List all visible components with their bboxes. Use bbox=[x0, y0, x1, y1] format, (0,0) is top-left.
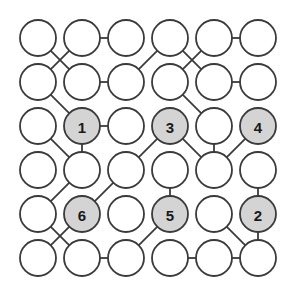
graph-node[interactable] bbox=[20, 20, 56, 56]
graph-edge bbox=[94, 182, 113, 201]
graph-node-2[interactable]: 2 bbox=[240, 196, 276, 232]
graph-edge bbox=[226, 138, 245, 157]
graph-edge bbox=[138, 226, 157, 245]
graph-node[interactable] bbox=[152, 64, 188, 100]
node-label: 3 bbox=[166, 119, 174, 136]
node-circle-empty[interactable] bbox=[20, 64, 56, 100]
graph-edge bbox=[50, 94, 69, 113]
node-circle-empty[interactable] bbox=[196, 152, 232, 188]
graph-node[interactable] bbox=[196, 20, 232, 56]
graph-node[interactable] bbox=[196, 152, 232, 188]
graph-node[interactable] bbox=[108, 64, 144, 100]
graph-node[interactable] bbox=[64, 20, 100, 56]
node-circle-empty[interactable] bbox=[152, 240, 188, 276]
graph-node[interactable] bbox=[152, 152, 188, 188]
node-circle-empty[interactable] bbox=[196, 240, 232, 276]
graph-node[interactable] bbox=[108, 108, 144, 144]
node-circle-empty[interactable] bbox=[240, 152, 276, 188]
node-circle-empty[interactable] bbox=[64, 20, 100, 56]
graph-node-4[interactable]: 4 bbox=[240, 108, 276, 144]
graph-node[interactable] bbox=[64, 240, 100, 276]
graph-node[interactable] bbox=[240, 240, 276, 276]
graph-node-3[interactable]: 3 bbox=[152, 108, 188, 144]
node-circle-empty[interactable] bbox=[64, 64, 100, 100]
graph-node[interactable] bbox=[196, 240, 232, 276]
graph-node[interactable] bbox=[240, 20, 276, 56]
node-circle-empty[interactable] bbox=[20, 20, 56, 56]
graph-edge bbox=[138, 138, 157, 157]
graph-node[interactable] bbox=[108, 152, 144, 188]
node-circle-empty[interactable] bbox=[20, 240, 56, 276]
node-circle-empty[interactable] bbox=[196, 64, 232, 100]
graph-node[interactable] bbox=[240, 152, 276, 188]
graph-edge bbox=[182, 94, 201, 113]
graph-node[interactable] bbox=[196, 196, 232, 232]
node-circle-empty[interactable] bbox=[152, 20, 188, 56]
graph-node[interactable] bbox=[64, 152, 100, 188]
node-circle-empty[interactable] bbox=[152, 152, 188, 188]
graph-node-6[interactable]: 6 bbox=[64, 196, 100, 232]
node-label: 4 bbox=[254, 119, 263, 136]
graph-diagram: 134652 bbox=[0, 0, 299, 307]
node-circle-empty[interactable] bbox=[108, 20, 144, 56]
graph-node[interactable] bbox=[20, 240, 56, 276]
node-circle-empty[interactable] bbox=[108, 196, 144, 232]
graph-node[interactable] bbox=[108, 20, 144, 56]
graph-node[interactable] bbox=[20, 108, 56, 144]
graph-edge bbox=[182, 138, 201, 157]
node-circle-empty[interactable] bbox=[108, 240, 144, 276]
node-circle-empty[interactable] bbox=[240, 20, 276, 56]
graph-node-1[interactable]: 1 bbox=[64, 108, 100, 144]
node-circle-empty[interactable] bbox=[64, 240, 100, 276]
node-label: 6 bbox=[78, 207, 86, 224]
graph-node[interactable] bbox=[152, 20, 188, 56]
graph-node[interactable] bbox=[240, 64, 276, 100]
node-circle-empty[interactable] bbox=[196, 108, 232, 144]
node-circle-empty[interactable] bbox=[20, 196, 56, 232]
node-circle-empty[interactable] bbox=[240, 64, 276, 100]
graph-node[interactable] bbox=[196, 64, 232, 100]
graph-node[interactable] bbox=[152, 240, 188, 276]
graph-node[interactable] bbox=[20, 64, 56, 100]
node-circle-empty[interactable] bbox=[196, 196, 232, 232]
node-label: 2 bbox=[254, 207, 262, 224]
graph-canvas: 134652 bbox=[0, 0, 299, 307]
node-circle-empty[interactable] bbox=[108, 108, 144, 144]
graph-node[interactable] bbox=[196, 108, 232, 144]
graph-node[interactable] bbox=[108, 196, 144, 232]
node-label: 5 bbox=[166, 207, 174, 224]
graph-edge bbox=[50, 138, 69, 157]
graph-node[interactable] bbox=[108, 240, 144, 276]
node-circle-empty[interactable] bbox=[108, 64, 144, 100]
graph-node[interactable] bbox=[64, 64, 100, 100]
node-circle-empty[interactable] bbox=[196, 20, 232, 56]
graph-edge bbox=[226, 226, 245, 245]
node-circle-empty[interactable] bbox=[20, 152, 56, 188]
graph-edge bbox=[50, 182, 69, 201]
graph-node-5[interactable]: 5 bbox=[152, 196, 188, 232]
node-label: 1 bbox=[78, 119, 86, 136]
node-circle-empty[interactable] bbox=[152, 64, 188, 100]
node-circle-empty[interactable] bbox=[108, 152, 144, 188]
node-circle-empty[interactable] bbox=[20, 108, 56, 144]
graph-node[interactable] bbox=[20, 196, 56, 232]
node-circle-empty[interactable] bbox=[64, 152, 100, 188]
graph-edge bbox=[138, 50, 157, 69]
graph-node[interactable] bbox=[20, 152, 56, 188]
node-circle-empty[interactable] bbox=[240, 240, 276, 276]
